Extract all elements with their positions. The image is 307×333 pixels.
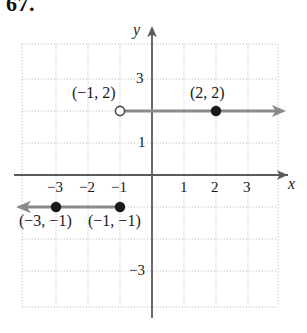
closed-dot-icon-2-2 <box>211 106 221 116</box>
y-tick-3: 3 <box>136 71 144 86</box>
x-tick-2: 2 <box>211 180 219 195</box>
figure-container: 67. <box>0 0 307 333</box>
point-label-2-2: (2, 2) <box>190 85 225 101</box>
point-label-neg3-neg1: (−3, −1) <box>19 213 72 229</box>
coordinate-plane-svg <box>0 0 307 333</box>
x-tick-3: 3 <box>243 180 251 195</box>
upper-ray <box>120 105 286 117</box>
y-axis-label: y <box>133 22 140 38</box>
y-tick-1: 1 <box>138 135 146 150</box>
y-tick-minus3: −3 <box>129 263 145 278</box>
point-label-neg1-neg1: (−1, −1) <box>88 213 141 229</box>
x-axis-label: x <box>288 176 295 192</box>
x-tick-minus3: −3 <box>47 180 63 195</box>
x-tick-1: 1 <box>180 180 188 195</box>
closed-dot-icon-neg1-neg1 <box>115 202 125 212</box>
closed-dot-icon-neg3-neg1 <box>51 202 61 212</box>
x-tick-minus1: −1 <box>111 180 127 195</box>
open-circle-icon <box>115 106 124 115</box>
axes <box>14 26 288 318</box>
point-label-neg1-2: (−1, 2) <box>72 85 116 101</box>
x-tick-minus2: −2 <box>79 180 95 195</box>
